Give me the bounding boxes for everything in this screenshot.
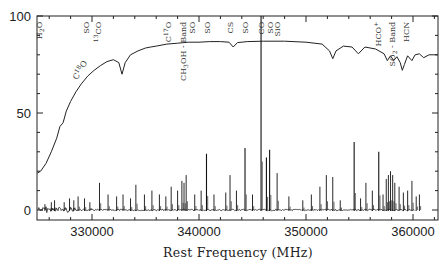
transmission-curve <box>37 41 437 173</box>
annotation-so: SO <box>82 21 91 33</box>
x-tick-360000: 360000 <box>391 224 434 239</box>
x-axis-label: Rest Frequency (MHz) <box>163 245 313 260</box>
annotation-h2o: H2O <box>35 21 45 39</box>
y-tick-0: 0 <box>24 203 31 218</box>
annotation-cs: CS <box>226 22 235 34</box>
annotation-c17o: C17O <box>162 21 173 42</box>
annotation-so2-band: SO2 - Band <box>388 22 398 67</box>
y-tick-100: 100 <box>9 9 31 24</box>
annotation-so: SO <box>241 21 250 33</box>
x-tick-340000: 340000 <box>177 224 220 239</box>
annotation-sio: SiO <box>273 21 282 36</box>
annotation-13co: 13CO <box>92 21 103 42</box>
spectrum-chart: H2OSO13COC18OC17OCH3OH - BandSOSOCSSOCOS… <box>0 0 446 266</box>
x-tick-350000: 350000 <box>284 224 327 239</box>
annotation-hcn: HCN <box>402 22 411 42</box>
line-annotations: H2OSO13COC18OC17OCH3OH - BandSOSOCSSOCOS… <box>35 21 411 81</box>
line-spectrum <box>38 16 421 213</box>
annotation-hco-: HCO+ <box>372 22 383 47</box>
annotation-so: SO <box>203 21 212 33</box>
x-tick-330000: 330000 <box>70 224 113 239</box>
annotation-so: SO <box>188 21 197 33</box>
y-tick-50: 50 <box>17 106 31 121</box>
